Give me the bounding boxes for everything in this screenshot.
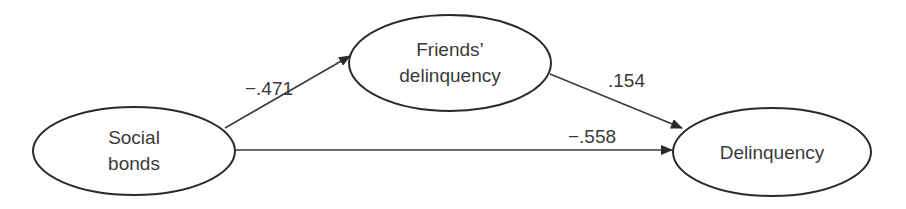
node-label-line: Friends’ — [416, 39, 484, 60]
node-label-line: Social — [108, 127, 160, 148]
node-social-bonds: Social bonds — [33, 107, 235, 195]
node-label-line: Delinquency — [720, 142, 825, 163]
path-diagram: −.471 .154 −.558 Social bonds Friends’ d… — [0, 0, 906, 209]
node-label-line: bonds — [108, 153, 160, 174]
ellipse — [349, 15, 551, 111]
node-delinquency: Delinquency — [673, 108, 871, 196]
node-friends-delinquency: Friends’ delinquency — [349, 15, 551, 111]
coefficient-label: −.558 — [568, 126, 616, 147]
node-label-line: delinquency — [399, 65, 501, 86]
edge-social-to-friends: −.471 — [225, 56, 350, 128]
edge-friends-to-delinquency: .154 — [550, 70, 682, 128]
edge-social-to-delinquency: −.558 — [235, 126, 672, 150]
coefficient-label: .154 — [608, 70, 645, 91]
coefficient-label: −.471 — [245, 78, 293, 99]
ellipse — [33, 107, 235, 195]
